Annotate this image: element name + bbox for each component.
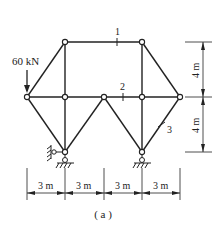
member-lower-left-inner	[65, 97, 104, 152]
vertical-dimension	[185, 42, 212, 152]
member-right-top-diagonal	[142, 42, 180, 97]
dim-label-h3: 3 m	[115, 180, 131, 191]
member-lower-left-outer	[27, 97, 65, 152]
figure-caption: ( a )	[94, 208, 112, 221]
joint	[62, 94, 67, 99]
load-label: 60 kN	[12, 55, 39, 67]
member-label-3: 3	[167, 124, 172, 135]
dim-label-v2: 4 m	[190, 118, 201, 134]
left-horizontal-support	[47, 145, 63, 161]
member-lower-right-inner	[104, 97, 142, 152]
dim-label-h2: 3 m	[76, 180, 92, 191]
dim-label-h4: 3 m	[153, 180, 169, 191]
dim-label-v1: 4 m	[190, 63, 201, 79]
joint	[62, 149, 67, 154]
member-label-2: 2	[120, 81, 125, 92]
joint	[62, 39, 67, 44]
member-label-1: 1	[115, 26, 120, 37]
joint	[139, 94, 144, 99]
dim-label-h1: 3 m	[38, 180, 54, 191]
joint	[139, 149, 144, 154]
joint	[139, 39, 144, 44]
joint	[101, 94, 106, 99]
member-left-top-diagonal	[27, 42, 65, 97]
joint	[177, 94, 182, 99]
load-arrow	[24, 70, 30, 93]
truss-diagram: 60 kN 1 2 3 3 m 3 m 3 m 3 m 4 m 4 m ( a …	[0, 0, 219, 233]
joint	[24, 94, 29, 99]
